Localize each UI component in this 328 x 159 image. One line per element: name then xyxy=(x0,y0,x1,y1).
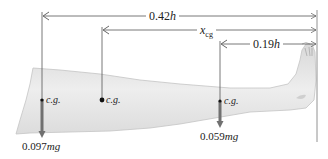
weight-arrow-shaft-left xyxy=(41,99,44,132)
total-dimension-unit: h xyxy=(170,9,176,23)
weight-right-unit: mg xyxy=(225,130,238,142)
leg-diagram xyxy=(0,0,328,159)
weight-arrowhead-right-icon xyxy=(217,121,224,128)
leg-silhouette xyxy=(16,44,316,134)
weight-arrowhead-left-icon xyxy=(39,131,46,138)
total-dimension-value: 0.42 xyxy=(149,9,170,23)
total-dimension-label: 0.42h xyxy=(146,10,179,22)
weight-left-unit: mg xyxy=(47,140,60,152)
cg-label-left: c.g. xyxy=(46,95,60,105)
foot-dimension-value: 0.19 xyxy=(253,37,274,51)
weight-right-value: 0.059 xyxy=(200,130,225,142)
weight-arrow-shaft-right xyxy=(219,101,222,122)
xcg-label: xcg xyxy=(197,24,216,39)
foot-dimension-unit: h xyxy=(274,37,280,51)
cg-label-right: c.g. xyxy=(224,96,238,106)
cg-label-middle: c.g. xyxy=(106,95,120,105)
cg-dot-left xyxy=(40,98,43,101)
weight-label-right: 0.059mg xyxy=(200,131,238,142)
weight-label-left: 0.097mg xyxy=(22,141,60,152)
weight-left-value: 0.097 xyxy=(22,140,47,152)
cg-dot-right xyxy=(218,99,221,102)
foot-dimension-label: 0.19h xyxy=(250,38,283,50)
xcg-subscript: cg xyxy=(205,30,213,39)
cg-dot-middle xyxy=(100,98,105,103)
